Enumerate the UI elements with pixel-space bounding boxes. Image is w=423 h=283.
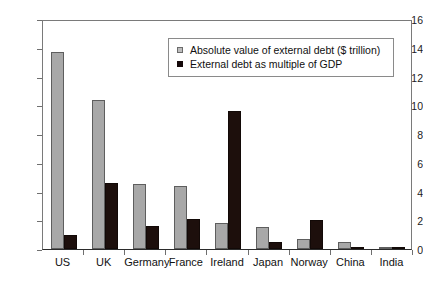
bar-uk-series-b bbox=[105, 183, 118, 249]
x-tick-mark bbox=[206, 250, 207, 255]
bar-japan-series-b bbox=[269, 242, 282, 249]
x-tick-label-india: India bbox=[371, 256, 412, 269]
bar-ireland-series-b bbox=[228, 111, 241, 249]
y-tick-mark bbox=[37, 250, 42, 251]
x-tick-label-france: France bbox=[165, 256, 206, 269]
bar-uk-series-a bbox=[92, 100, 105, 250]
bar-us-series-b bbox=[64, 235, 77, 249]
x-tick-mark bbox=[124, 250, 125, 255]
bar-japan-series-a bbox=[256, 227, 269, 249]
legend-item-label: Absolute value of external debt ($ trill… bbox=[190, 44, 380, 56]
x-tick-label-us: US bbox=[42, 256, 83, 269]
bar-us-series-a bbox=[51, 52, 64, 249]
x-tick-mark bbox=[83, 250, 84, 255]
bar-india-series-b bbox=[392, 247, 405, 249]
series-b-swatch-icon bbox=[177, 61, 183, 67]
x-tick-label-japan: Japan bbox=[248, 256, 289, 269]
x-tick-mark bbox=[330, 250, 331, 255]
x-tick-label-uk: UK bbox=[83, 256, 124, 269]
bar-china-series-b bbox=[351, 247, 364, 249]
x-tick-mark bbox=[165, 250, 166, 255]
bar-ireland-series-a bbox=[215, 223, 228, 249]
x-tick-mark bbox=[371, 250, 372, 255]
legend-item: External debt as multiple of GDP bbox=[177, 57, 385, 71]
x-tick-mark bbox=[248, 250, 249, 255]
bar-china-series-a bbox=[338, 242, 351, 249]
bar-india-series-a bbox=[379, 247, 392, 249]
x-tick-mark bbox=[412, 250, 413, 255]
bar-germany-series-a bbox=[133, 184, 146, 249]
chart-legend: Absolute value of external debt ($ trill… bbox=[168, 38, 394, 77]
bar-france-series-a bbox=[174, 186, 187, 249]
bar-norway-series-b bbox=[310, 220, 323, 249]
series-a-swatch-icon bbox=[177, 47, 183, 53]
legend-item-label: External debt as multiple of GDP bbox=[190, 58, 342, 70]
x-tick-label-ireland: Ireland bbox=[206, 256, 247, 269]
x-tick-mark bbox=[289, 250, 290, 255]
bar-chart: 0246810121416 USUKGermanyFranceIrelandJa… bbox=[0, 0, 423, 283]
bar-france-series-b bbox=[187, 219, 200, 249]
bar-germany-series-b bbox=[146, 226, 159, 249]
legend-item: Absolute value of external debt ($ trill… bbox=[177, 43, 385, 57]
x-tick-label-china: China bbox=[330, 256, 371, 269]
x-tick-label-norway: Norway bbox=[289, 256, 330, 269]
x-tick-label-germany: Germany bbox=[124, 256, 165, 269]
bar-norway-series-a bbox=[297, 239, 310, 249]
